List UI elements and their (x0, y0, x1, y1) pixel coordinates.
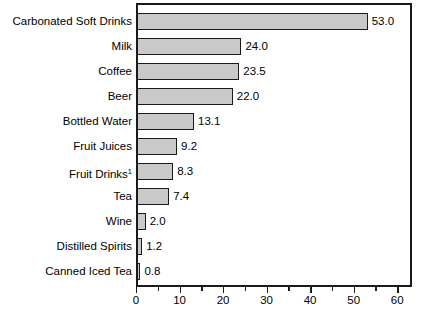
x-tick-minor (158, 287, 159, 291)
category-label: Canned Iced Tea (45, 259, 132, 284)
bar-value-label: 9.2 (181, 134, 197, 159)
bar (137, 113, 194, 130)
bar-row: Bottled Water13.1 (0, 109, 421, 134)
x-tick-label: 10 (173, 294, 186, 306)
bar-value-label: 53.0 (372, 9, 394, 34)
x-tick-label: 40 (304, 294, 317, 306)
x-tick-major (136, 287, 137, 293)
bar (137, 138, 177, 155)
x-tick-major (180, 287, 181, 293)
category-label: Beer (108, 84, 132, 109)
bar (137, 88, 233, 105)
x-axis: 0102030405060 (136, 287, 412, 312)
bar (137, 213, 146, 230)
bar (137, 13, 368, 30)
bar (137, 238, 142, 255)
x-tick-label: 60 (391, 294, 404, 306)
category-footnote-marker: 1 (128, 167, 132, 176)
x-tick-major (397, 287, 398, 293)
x-tick-major (223, 287, 224, 293)
x-tick-label: 0 (133, 294, 139, 306)
x-tick-minor (245, 287, 246, 291)
bar-row: Coffee23.5 (0, 59, 421, 84)
bar (137, 63, 239, 80)
x-tick-major (354, 287, 355, 293)
category-label: Fruit Drinks1 (69, 159, 132, 184)
bar-row: Fruit Drinks18.3 (0, 159, 421, 184)
bar-value-label: 22.0 (237, 84, 259, 109)
x-tick-minor (375, 287, 376, 291)
bar-value-label: 0.8 (144, 259, 160, 284)
bar-row: Wine2.0 (0, 209, 421, 234)
bar-row: Tea7.4 (0, 184, 421, 209)
bar-value-label: 2.0 (150, 209, 166, 234)
x-tick-major (310, 287, 311, 293)
category-label: Tea (113, 184, 132, 209)
category-label: Coffee (98, 59, 132, 84)
bar-value-label: 13.1 (198, 109, 220, 134)
x-tick-label: 30 (260, 294, 273, 306)
x-tick-label: 50 (347, 294, 360, 306)
bar-row: Distilled Spirits1.2 (0, 234, 421, 259)
bar (137, 163, 173, 180)
bar-row: Beer22.0 (0, 84, 421, 109)
bar (137, 263, 140, 280)
category-label: Fruit Juices (73, 134, 132, 159)
x-tick-label: 20 (217, 294, 230, 306)
x-tick-minor (332, 287, 333, 291)
category-label: Distilled Spirits (57, 234, 132, 259)
x-tick-minor (201, 287, 202, 291)
bar (137, 188, 169, 205)
x-tick-minor (288, 287, 289, 291)
category-label: Bottled Water (63, 109, 132, 134)
bar-value-label: 8.3 (177, 159, 193, 184)
bar-row: Carbonated Soft Drinks53.0 (0, 9, 421, 34)
bar-row: Canned Iced Tea0.8 (0, 259, 421, 284)
bar-value-label: 23.5 (243, 59, 265, 84)
category-label: Wine (106, 209, 132, 234)
bar-value-label: 7.4 (173, 184, 189, 209)
category-label: Milk (112, 34, 132, 59)
category-label: Carbonated Soft Drinks (12, 9, 132, 34)
bar-chart-figure: Carbonated Soft Drinks53.0Milk24.0Coffee… (0, 0, 421, 312)
bar-value-label: 1.2 (146, 234, 162, 259)
bar-value-label: 24.0 (245, 34, 267, 59)
bar (137, 38, 241, 55)
bar-row: Milk24.0 (0, 34, 421, 59)
bar-row: Fruit Juices9.2 (0, 134, 421, 159)
x-tick-major (267, 287, 268, 293)
